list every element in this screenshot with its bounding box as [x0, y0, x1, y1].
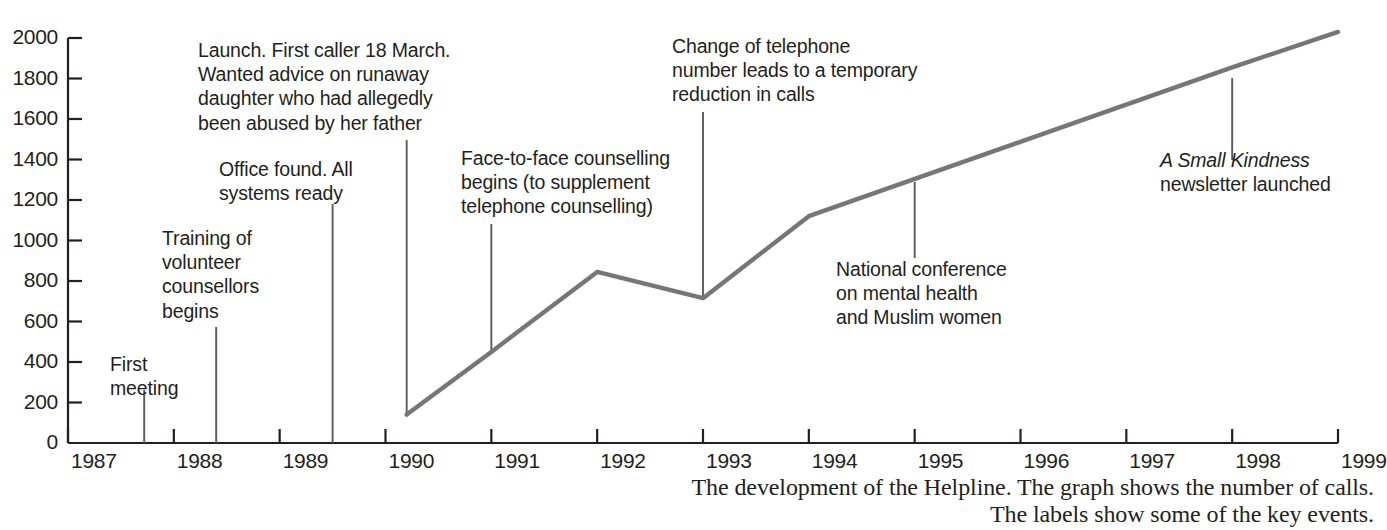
annotation-national-conference: National conference on mental health and… — [836, 257, 1007, 330]
annotation-office-found-all-systems-ready: Office found. All systems ready — [219, 157, 353, 205]
annotation-change-of-telephone-number: Change of telephone number leads to a te… — [672, 34, 917, 107]
y-axis-tick-label: 1800 — [0, 66, 58, 90]
y-axis-tick-label: 200 — [0, 390, 58, 414]
caption-line-1: The development of the Helpline. The gra… — [584, 474, 1374, 501]
x-axis-tick-label: 1991 — [494, 449, 540, 473]
annotation-title-italic: A Small Kindness — [1160, 149, 1310, 171]
x-axis-tick-label: 1996 — [1024, 449, 1070, 473]
x-axis-tick-label: 1995 — [918, 449, 964, 473]
y-axis-tick-label: 600 — [0, 309, 58, 333]
annotation-training-of-volunteer-counsellors-begins: Training of volunteer counsellors begins — [162, 226, 259, 323]
x-axis-tick-label: 1987 — [71, 449, 117, 473]
annotation-first-meeting: First meeting — [110, 352, 178, 400]
x-axis-tick-label: 1994 — [812, 449, 858, 473]
figure-caption: The development of the Helpline. The gra… — [584, 474, 1374, 528]
y-axis-tick-label: 1400 — [0, 147, 58, 171]
y-axis-tick-label: 800 — [0, 268, 58, 292]
x-axis-tick-label: 1998 — [1235, 449, 1281, 473]
annotation-a-small-kindness-newsletter: A Small Kindness newsletter launched — [1160, 148, 1331, 196]
y-axis-tick-label: 2000 — [0, 25, 58, 49]
x-axis-tick-label: 1990 — [389, 449, 435, 473]
x-axis-tick-label: 1992 — [600, 449, 646, 473]
caption-line-2: The labels show some of the key events. — [584, 501, 1374, 528]
x-axis-tick-label: 1997 — [1129, 449, 1175, 473]
x-axis-tick-label: 1993 — [706, 449, 752, 473]
y-axis-tick-label: 1000 — [0, 228, 58, 252]
y-axis-tick-label: 1600 — [0, 106, 58, 130]
y-axis-tick-label: 1200 — [0, 187, 58, 211]
annotation-face-to-face-counselling-begins: Face-to-face counselling begins (to supp… — [461, 146, 670, 219]
x-axis-tick-label: 1999 — [1341, 449, 1387, 473]
x-axis-tick-label: 1988 — [177, 449, 223, 473]
annotation-launch-first-caller: Launch. First caller 18 March. Wanted ad… — [198, 38, 450, 135]
y-axis-tick-label: 0 — [0, 430, 58, 454]
y-axis-tick-label: 400 — [0, 349, 58, 373]
x-axis-tick-label: 1989 — [283, 449, 329, 473]
